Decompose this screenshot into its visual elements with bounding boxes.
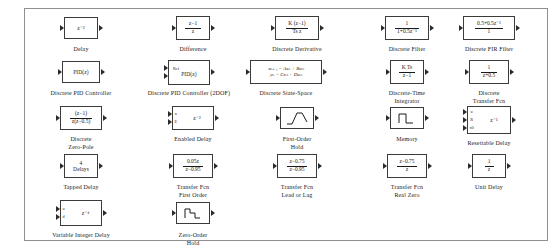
- block-cell-resettable-delay[interactable]: u R x0 z⁻¹ Resettable Delay: [433, 103, 545, 147]
- block-cell-delay[interactable]: z⁻² Delay: [25, 13, 137, 53]
- block-graphic-delay[interactable]: z⁻²: [25, 13, 137, 43]
- block-body[interactable]: (z−1) z(z−0.5): [60, 106, 102, 130]
- numerator: 1: [404, 21, 411, 27]
- block-body[interactable]: 4 Delays: [64, 154, 98, 178]
- block-cell-discrete-state-space[interactable]: xₙ₊₁ = Axₙ + Buₙ yₙ = Cxₙ + Duₙ Discrete…: [221, 57, 351, 97]
- input-port-icon: [273, 163, 277, 169]
- block-graphic-discrete-fir-filter[interactable]: 0.5+0.5z⁻¹ 1: [433, 13, 545, 43]
- denominator: z: [404, 167, 410, 173]
- block-graphic-transfer-fcn-first-order[interactable]: 0.05z z−0.95: [137, 151, 249, 181]
- denominator: z−1: [401, 73, 413, 79]
- block-body[interactable]: 0.5+0.5z⁻¹ 1: [463, 16, 515, 40]
- block-cell-first-order-hold[interactable]: First-Order Hold: [241, 103, 353, 151]
- block-caption: Discrete FIR Filter: [433, 45, 545, 53]
- block-body[interactable]: z−0.75 z: [387, 154, 427, 178]
- input-port-icon: [381, 25, 385, 31]
- block-graphic-discrete-transfer-fcn[interactable]: 1 z+0.5: [433, 57, 545, 87]
- transfer-fraction: 0.05z z−0.95: [183, 159, 202, 173]
- denominator: z−0.95: [287, 167, 306, 173]
- block-cell-discrete-transfer-fcn[interactable]: 1 z+0.5 Discrete Transfer Fcn: [433, 57, 545, 105]
- block-graphic-transfer-fcn-lead-or-lag[interactable]: z−0.75 z−0.95: [241, 151, 353, 181]
- block-graphic-discrete-zero-pole[interactable]: (z−1) z(z−0.5): [25, 103, 137, 133]
- block-body[interactable]: 1 1+0.5z⁻¹: [385, 16, 429, 40]
- block-caption: Variable Integer Delay: [25, 231, 137, 239]
- output-port-icon: [103, 210, 107, 216]
- block-caption: Discrete Derivative: [241, 45, 353, 53]
- block-caption: Resettable Delay: [433, 139, 545, 147]
- block-caption: Transfer Fcn Lead or Lag: [241, 183, 353, 199]
- block-graphic-tapped-delay[interactable]: 4 Delays: [25, 151, 137, 181]
- block-cell-difference[interactable]: z−1 z Difference: [137, 13, 249, 53]
- output-port-icon: [318, 163, 322, 169]
- transfer-fraction: (z−1) z(z−0.5): [70, 111, 93, 125]
- denominator: 1+0.5z⁻¹: [395, 29, 419, 35]
- input-port-icon: [56, 115, 60, 121]
- block-graphic-discrete-pid-controller[interactable]: PID(z): [25, 57, 137, 87]
- block-graphic-resettable-delay[interactable]: u R x0 z⁻¹: [433, 103, 545, 137]
- input-port-icon: [60, 163, 64, 169]
- block-graphic-variable-integer-delay[interactable]: u d z⁻ᵈ: [25, 197, 137, 229]
- transfer-fraction: z−0.75 z−0.95: [287, 159, 306, 173]
- block-graphic-zero-order-hold[interactable]: [137, 197, 249, 229]
- port-label-r: R: [470, 118, 474, 123]
- block-cell-enabled-delay[interactable]: u E z⁻² Enabled Delay: [137, 103, 249, 143]
- output-port-icon: [315, 115, 319, 121]
- block-body[interactable]: xₙ₊₁ = Axₙ + Buₙ yₙ = Cxₙ + Duₙ: [250, 60, 322, 84]
- output-port-icon: [211, 25, 215, 31]
- block-expression: z⁻¹: [490, 117, 497, 123]
- block-cell-unit-delay[interactable]: 1 z Unit Delay: [433, 151, 545, 191]
- transfer-fraction: 1 z+0.5: [481, 65, 497, 79]
- block-expression: PID(z): [73, 69, 89, 75]
- block-cell-discrete-pid-controller[interactable]: PID(z) Discrete PID Controller: [25, 57, 137, 97]
- block-body[interactable]: 0.05z z−0.95: [173, 154, 213, 178]
- block-body[interactable]: u d z⁻ᵈ: [60, 200, 102, 226]
- block-graphic-unit-delay[interactable]: 1 z: [433, 151, 545, 181]
- block-body[interactable]: z−0.75 z−0.95: [277, 154, 317, 178]
- block-body[interactable]: [390, 107, 424, 129]
- block-cell-discrete-fir-filter[interactable]: 0.5+0.5z⁻¹ 1 Discrete FIR Filter: [433, 13, 545, 53]
- discrete-block-library: z⁻² Delay z−1 z Difference: [0, 0, 556, 252]
- input-port-icon: [164, 65, 168, 71]
- block-body[interactable]: K Ts z−1: [390, 60, 424, 84]
- block-body[interactable]: 1 z: [472, 154, 506, 178]
- block-body[interactable]: z⁻²: [64, 17, 98, 39]
- transfer-fraction: z−1 z: [185, 21, 201, 35]
- block-graphic-first-order-hold[interactable]: [241, 103, 353, 133]
- port-labels: u d: [63, 207, 65, 220]
- port-label-u: u: [63, 207, 65, 212]
- input-port-icon: [383, 163, 387, 169]
- zero-order-hold-icon: [182, 204, 204, 222]
- block-body[interactable]: u R x0 z⁻¹: [467, 106, 511, 134]
- input-port-icon: [164, 73, 168, 79]
- block-graphic-enabled-delay[interactable]: u E z⁻²: [137, 103, 249, 133]
- output-port-icon: [211, 210, 215, 216]
- block-cell-zero-order-hold[interactable]: Zero-Order Hold: [137, 197, 249, 247]
- block-body[interactable]: Ref PID(z): [168, 60, 210, 85]
- block-body[interactable]: u E z⁻²: [172, 106, 214, 130]
- output-equation: yₙ = Cxₙ + Duₙ: [270, 72, 302, 78]
- block-body[interactable]: z−1 z: [176, 16, 210, 40]
- denominator: z−0.95: [183, 167, 202, 173]
- block-cell-variable-integer-delay[interactable]: u d z⁻ᵈ Variable Integer Delay: [25, 197, 137, 239]
- input-port-icon: [56, 206, 60, 212]
- block-cell-transfer-fcn-lead-or-lag[interactable]: z−0.75 z−0.95 Transfer Fcn Lead or Lag: [241, 151, 353, 199]
- block-cell-tapped-delay[interactable]: 4 Delays Tapped Delay: [25, 151, 137, 191]
- input-port-icon: [56, 214, 60, 220]
- block-cell-discrete-zero-pole[interactable]: (z−1) z(z−0.5) Discrete Zero-Pole: [25, 103, 137, 151]
- denominator: z+0.5: [481, 73, 497, 79]
- block-graphic-difference[interactable]: z−1 z: [137, 13, 249, 43]
- block-body[interactable]: K (z−1) Ts z: [275, 16, 319, 40]
- input-port-icon: [463, 109, 467, 115]
- block-body[interactable]: 1 z+0.5: [469, 60, 509, 84]
- block-cell-discrete-derivative[interactable]: K (z−1) Ts z Discrete Derivative: [241, 13, 353, 53]
- block-cell-transfer-fcn-first-order[interactable]: 0.05z z−0.95 Transfer Fcn First Order: [137, 151, 249, 199]
- input-port-icon: [276, 115, 280, 121]
- block-body[interactable]: [176, 202, 210, 224]
- block-caption: Tapped Delay: [25, 183, 137, 191]
- block-caption: Discrete State-Space: [221, 89, 351, 97]
- block-body[interactable]: PID(z): [62, 61, 100, 83]
- block-graphic-discrete-state-space[interactable]: xₙ₊₁ = Axₙ + Buₙ yₙ = Cxₙ + Duₙ: [221, 57, 351, 87]
- port-labels: u R x0: [470, 110, 474, 130]
- block-graphic-discrete-derivative[interactable]: K (z−1) Ts z: [241, 13, 353, 43]
- block-body[interactable]: [280, 107, 314, 129]
